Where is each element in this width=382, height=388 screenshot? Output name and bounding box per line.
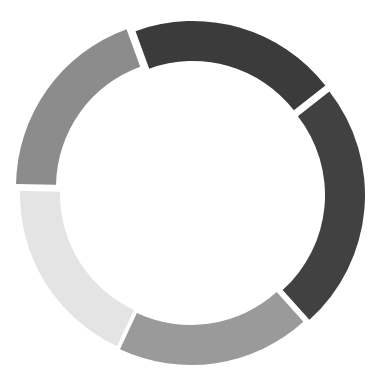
segment-top-dark — [136, 21, 326, 110]
segment-left-light — [20, 191, 134, 346]
segmented-ring-diagram — [0, 0, 382, 388]
segment-bottom-gray — [120, 292, 303, 365]
segment-right-dark — [283, 92, 365, 320]
ring-svg — [0, 0, 382, 388]
segment-topleft-gray — [16, 29, 140, 185]
